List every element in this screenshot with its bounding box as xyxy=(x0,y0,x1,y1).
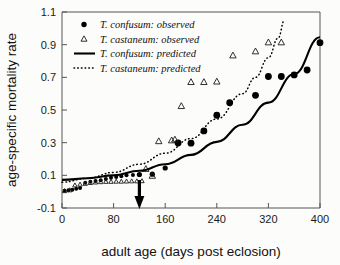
data-point xyxy=(304,67,311,74)
x-tick-label: 80 xyxy=(107,213,119,225)
data-point xyxy=(137,172,142,177)
legend-label: T. confusum: predicted xyxy=(100,48,197,59)
legend-item-1: T. confusum: observed xyxy=(81,19,195,30)
y-tick-label: 0.1 xyxy=(41,169,56,181)
data-point xyxy=(252,48,258,54)
y-tick-label: 0.7 xyxy=(41,71,56,83)
data-point xyxy=(278,39,284,45)
data-point xyxy=(131,173,135,177)
chart-legend: T. confusum: observedT. castaneum: obser… xyxy=(74,19,201,74)
legend-label: T. castaneum: predicted xyxy=(100,63,201,74)
data-point xyxy=(213,112,220,119)
y-tick-label: -0.1 xyxy=(37,202,56,214)
data-point xyxy=(114,179,118,183)
data-point xyxy=(265,39,271,45)
data-point xyxy=(201,79,207,85)
legend-filled-circle-icon xyxy=(81,22,86,27)
y-axis-tick-labels: -0.10.10.30.50.70.91.1 xyxy=(37,6,56,214)
x-tick-label: 0 xyxy=(59,213,65,225)
y-tick-label: 0.9 xyxy=(41,39,56,51)
x-axis-ticks xyxy=(62,203,320,208)
x-tick-label: 320 xyxy=(259,213,277,225)
data-point xyxy=(214,78,220,84)
legend-item-4: T. castaneum: predicted xyxy=(74,63,201,74)
data-point xyxy=(265,73,272,80)
y-axis-title: age-specific mortality rate xyxy=(4,33,19,187)
data-point xyxy=(188,140,195,147)
legend-label: T. confusum: observed xyxy=(100,19,195,30)
data-point xyxy=(73,183,77,187)
data-point xyxy=(119,179,123,183)
arrow-head xyxy=(134,196,144,209)
mortality-rate-chart: -0.10.10.30.50.70.91.1 080160240320400 T… xyxy=(0,0,340,265)
annotation-group xyxy=(134,180,144,209)
data-point xyxy=(156,138,162,144)
data-point xyxy=(78,186,82,190)
data-point xyxy=(175,140,182,147)
x-tick-label: 400 xyxy=(311,213,329,225)
data-point xyxy=(109,179,113,183)
x-tick-label: 160 xyxy=(156,213,174,225)
x-tick-label: 240 xyxy=(208,213,226,225)
data-point xyxy=(317,39,324,46)
y-tick-label: 0.5 xyxy=(41,104,56,116)
data-series-group xyxy=(62,20,323,193)
data-point xyxy=(252,92,259,99)
y-tick-label: 1.1 xyxy=(41,6,56,18)
data-point xyxy=(178,103,184,109)
figure-container: -0.10.10.30.50.70.91.1 080160240320400 T… xyxy=(0,0,340,265)
data-point xyxy=(188,79,194,85)
down-arrow xyxy=(134,180,144,209)
legend-label: T. castaneum: observed xyxy=(100,34,200,45)
y-tick-label: 0.3 xyxy=(41,137,56,149)
data-point xyxy=(124,179,128,183)
y-axis-ticks xyxy=(62,12,67,208)
x-axis-tick-labels: 080160240320400 xyxy=(59,213,329,225)
data-point xyxy=(278,73,285,80)
legend-open-triangle-icon xyxy=(81,36,87,41)
data-point xyxy=(163,165,168,170)
legend-item-2: T. castaneum: observed xyxy=(81,34,200,45)
data-point xyxy=(129,179,133,183)
legend-item-3: T. confusum: predicted xyxy=(74,48,197,59)
x-axis-title: adult age (days post eclosion) xyxy=(101,244,280,259)
data-point xyxy=(230,52,236,58)
data-point xyxy=(78,182,82,186)
